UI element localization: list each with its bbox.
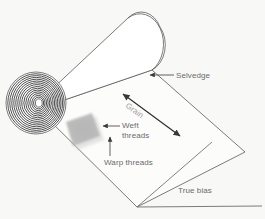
rolled-fabric-spiral-end bbox=[6, 72, 66, 134]
label-selvedge: Selvedge bbox=[176, 71, 210, 81]
fabric-grain-diagram: Selvedge Grain Weft threads Warp threads… bbox=[0, 0, 265, 219]
true-bias-baseline bbox=[137, 206, 262, 207]
label-weft-threads: Weft threads bbox=[122, 121, 149, 140]
spiral-core bbox=[35, 99, 42, 107]
label-warp-threads: Warp threads bbox=[104, 158, 153, 168]
label-weft-line1: Weft bbox=[122, 121, 149, 131]
label-true-bias: True bias bbox=[178, 186, 212, 196]
label-weft-line2: threads bbox=[122, 131, 149, 141]
